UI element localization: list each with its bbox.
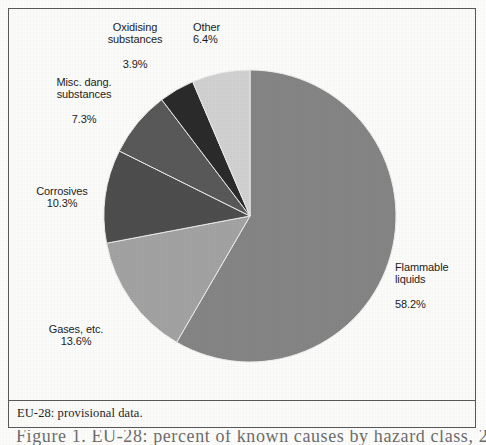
slice-label-misc-value: 7.3% [32,113,136,126]
footnote-text: EU-28: provisional data. [17,406,143,421]
slice-label-oxidising-name-line1: Oxidising [113,21,157,33]
slice-label-flammable-name-line2: liquids [395,273,479,286]
slice-label-corrosives-name: Corrosives [36,185,88,197]
slice-label-other: Other 6.4% [193,8,265,58]
footnote-divider [9,400,475,401]
slice-label-misc-name-line2: substances [32,88,136,101]
slice-label-oxidising-name-line2: substances [86,33,184,46]
caption-clip: Figure 1. EU-28: percent of known causes… [0,430,486,445]
slice-label-gases-value: 13.6% [20,335,132,348]
slice-label-misc-name-line1: Misc. dang. [56,76,111,88]
slice-label-other-value: 6.4% [193,33,265,46]
slice-label-corrosives: Corrosives 10.3% [10,172,114,222]
slice-label-flammable-value: 58.2% [395,298,479,311]
pie-slice-group [104,70,396,362]
slice-label-misc-dangerous-substances: Misc. dang. substances 7.3% [32,63,136,138]
slice-label-other-name: Other [193,21,220,33]
slice-label-gases-name: Gases, etc. [49,323,104,335]
figure-caption: Figure 1. EU-28: percent of known causes… [16,430,486,445]
slice-label-gases: Gases, etc. 13.6% [20,310,132,360]
figure-screenshot: Oxidising substances 3.9% Other 6.4% Mis… [0,0,486,445]
slice-label-flammable-liquids: Flammable liquids 58.2% [395,248,479,323]
slice-label-flammable-name-line1: Flammable [395,261,449,273]
slice-label-corrosives-value: 10.3% [10,197,114,210]
